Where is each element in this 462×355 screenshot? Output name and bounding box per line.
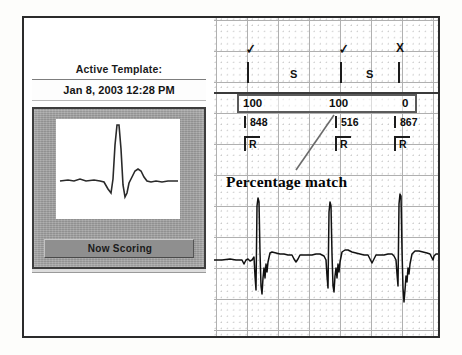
panel-divider xyxy=(32,269,206,273)
ecg-strip-panel[interactable]: ✓ ✓ X S S 100 100 0 848 516 867 R xyxy=(214,18,438,336)
template-date-value: Jan 8, 2003 12:28 PM xyxy=(32,84,206,96)
active-template-panel: Active Template: Jan 8, 2003 12:28 PM No… xyxy=(24,18,214,336)
application-frame: Active Template: Jan 8, 2003 12:28 PM No… xyxy=(22,16,440,338)
screenshot-canvas: Active Template: Jan 8, 2003 12:28 PM No… xyxy=(0,0,462,355)
active-template-heading: Active Template: xyxy=(30,63,208,75)
ecg-waveform-trace xyxy=(214,190,438,336)
template-preview-panel[interactable]: Now Scoring xyxy=(32,107,206,269)
template-beat-waveform xyxy=(56,119,180,219)
now-scoring-button[interactable]: Now Scoring xyxy=(44,239,194,258)
template-date-field[interactable]: Jan 8, 2003 12:28 PM xyxy=(32,79,206,101)
percentage-match-caption: Percentage match xyxy=(226,173,347,191)
now-scoring-label: Now Scoring xyxy=(45,243,195,254)
